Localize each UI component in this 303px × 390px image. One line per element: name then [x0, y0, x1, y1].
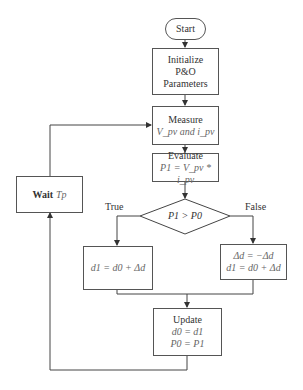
- measure-line1: Measure: [168, 114, 202, 126]
- measure-box: Measure V_pv and i_pv: [152, 106, 219, 145]
- update-box: Update d0 = d1 P0 = P1: [153, 308, 222, 356]
- wait-box: Wait Tp: [16, 176, 83, 213]
- initialize-box: Initialize P&O Parameters: [152, 48, 219, 95]
- decision-label: P1 > P0: [168, 210, 202, 221]
- false-label: False: [245, 201, 266, 212]
- init-line3: Parameters: [163, 78, 207, 90]
- measure-line2: V_pv and i_pv: [157, 126, 215, 138]
- wait-period: Tp: [56, 189, 67, 201]
- init-line2: P&O: [175, 66, 196, 78]
- true-line1: d1 = d0 + Δd: [91, 262, 145, 274]
- evaluate-line1: Evaluate: [168, 150, 203, 162]
- start-terminal: Start: [165, 18, 206, 40]
- true-branch-box: d1 = d0 + Δd: [83, 246, 153, 290]
- false-line1: Δd = −Δd: [233, 250, 273, 262]
- evaluate-box: Evaluate P1 = V_pv * i_pv: [152, 153, 219, 182]
- true-label: True: [105, 201, 124, 212]
- evaluate-line2: P1 = V_pv * i_pv: [153, 162, 218, 186]
- wait-label: Wait: [32, 189, 53, 201]
- init-line1: Initialize: [168, 54, 204, 66]
- start-label: Start: [176, 23, 195, 35]
- update-line2: d0 = d1: [172, 326, 204, 338]
- false-branch-box: Δd = −Δd d1 = d0 + Δd: [220, 244, 287, 280]
- update-line3: P0 = P1: [171, 338, 205, 350]
- update-line1: Update: [173, 314, 202, 326]
- false-line2: d1 = d0 + Δd: [226, 262, 280, 274]
